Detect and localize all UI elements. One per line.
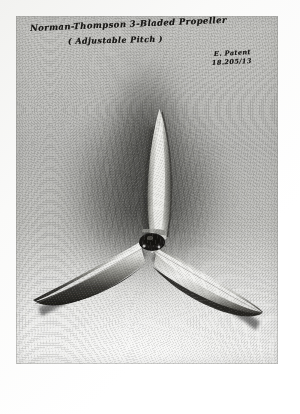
photograph <box>16 16 278 364</box>
lower-left-blade <box>33 241 155 305</box>
paper-mount: Norman-Thompson 3-Bladed Propeller ( Adj… <box>0 0 300 414</box>
propeller-illustration <box>16 16 278 364</box>
lower-right-blade <box>149 242 263 316</box>
